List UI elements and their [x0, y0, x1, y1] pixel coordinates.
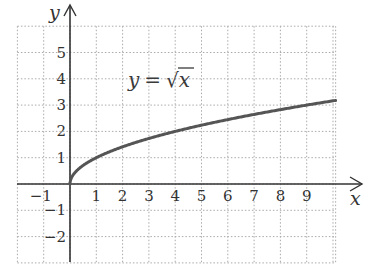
- y-tick-label: 4: [56, 70, 66, 88]
- curve-path: [70, 100, 336, 184]
- x-tick-label: 8: [276, 187, 286, 205]
- y-tick-label: −2: [44, 228, 66, 246]
- equation-arg: x: [179, 68, 190, 92]
- x-tick-label: 2: [118, 187, 128, 205]
- x-tick-labels: −1123456789: [30, 187, 312, 205]
- equation-annotation: y=√x: [127, 68, 194, 92]
- x-tick-label: 7: [249, 187, 259, 205]
- y-tick-label: 1: [56, 149, 66, 167]
- x-tick-label: 4: [170, 187, 180, 205]
- y-tick-label: 5: [56, 44, 66, 62]
- axes: [17, 5, 362, 262]
- sqrt-function-graph: −1123456789 −2−112345 x y y=√x: [0, 0, 370, 274]
- equation-radical: √: [166, 68, 179, 92]
- y-tick-label: 2: [56, 122, 66, 140]
- equation-lhs: y: [127, 68, 140, 92]
- y-tick-label: −1: [44, 201, 66, 219]
- x-axis-label: x: [350, 187, 361, 209]
- equation-equals: =: [144, 68, 161, 92]
- sqrt-curve: [70, 100, 336, 184]
- svg-text:y=√x: y=√x: [127, 68, 190, 92]
- x-tick-label: 6: [223, 187, 233, 205]
- x-tick-label: 5: [197, 187, 207, 205]
- x-tick-label: 3: [144, 187, 154, 205]
- y-tick-labels: −2−112345: [44, 44, 66, 246]
- y-axis-label: y: [48, 1, 60, 23]
- y-tick-label: 3: [56, 96, 66, 114]
- x-tick-label: 1: [92, 187, 102, 205]
- x-tick-label: 9: [302, 187, 312, 205]
